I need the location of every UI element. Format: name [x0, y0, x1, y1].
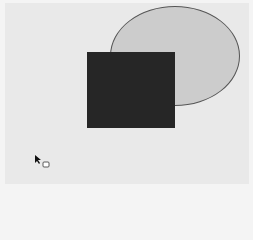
rectangle-shape[interactable] — [87, 52, 175, 128]
pointer-with-copy-icon — [35, 154, 51, 173]
